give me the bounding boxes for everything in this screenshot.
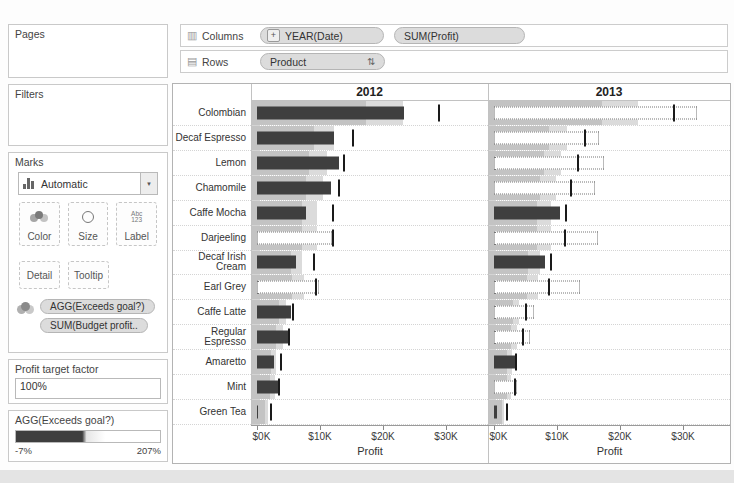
product-label[interactable]: Darjeeling xyxy=(173,226,251,251)
bullet-bar[interactable] xyxy=(257,331,288,344)
size-icon xyxy=(82,211,94,223)
product-label[interactable]: Colombian xyxy=(173,101,251,126)
bullet-bar[interactable] xyxy=(494,156,604,169)
axis-tick-label: $0K xyxy=(253,431,271,442)
bullet-bar[interactable] xyxy=(494,406,497,419)
size-button[interactable]: Size xyxy=(68,202,109,246)
bullet-bar[interactable] xyxy=(257,406,258,419)
reference-line xyxy=(338,179,340,196)
bullet-bar[interactable] xyxy=(257,231,332,244)
product-label[interactable]: Caffe Mocha xyxy=(173,201,251,226)
x-axis-2012: Profit $0K$10K$20K$30K xyxy=(252,426,488,463)
product-label[interactable]: Green Tea xyxy=(173,400,251,425)
bullet-bar[interactable] xyxy=(257,156,339,169)
axis-tick-label: $10K xyxy=(545,431,568,442)
bullet-bar[interactable] xyxy=(494,106,697,119)
pill-sum-profit[interactable]: SUM(Profit) xyxy=(394,27,525,44)
pill-year-date[interactable]: + YEAR(Date) xyxy=(260,27,384,44)
bullet-bar[interactable] xyxy=(494,131,599,144)
color-icon xyxy=(35,211,43,219)
bullet-row xyxy=(489,201,730,226)
bullet-row xyxy=(489,400,730,425)
reference-line xyxy=(332,204,334,221)
plus-icon[interactable]: + xyxy=(267,29,280,42)
page-bottom-margin xyxy=(0,470,734,483)
reference-line xyxy=(548,279,550,296)
reference-line xyxy=(550,254,552,271)
year-header-2012[interactable]: 2012 xyxy=(251,84,488,100)
x-axis: Profit $0K$10K$20K$30K Profit $0K$10K$20… xyxy=(251,425,730,463)
product-label[interactable]: Lemon xyxy=(173,151,251,176)
sort-icon[interactable]: ⇅ xyxy=(367,56,375,67)
dropdown-caret-icon[interactable]: ▼ xyxy=(140,173,157,194)
marks-pill-exceeds-goal[interactable]: AGG(Exceeds goal?) xyxy=(40,299,155,314)
axis-title-profit: Profit xyxy=(489,445,730,457)
bullet-row xyxy=(252,201,488,226)
bullet-row xyxy=(252,126,488,151)
bullet-chart: 2012 2013 ColombianDecaf EspressoLemonCh… xyxy=(172,83,731,464)
bullet-bar[interactable] xyxy=(257,206,306,219)
bullet-row xyxy=(489,350,730,375)
bullet-bar[interactable] xyxy=(494,256,545,269)
product-label[interactable]: Regular Espresso xyxy=(173,325,251,350)
bullet-row xyxy=(489,101,730,126)
pill-product[interactable]: Product ⇅ xyxy=(260,53,385,70)
product-label[interactable]: Mint xyxy=(173,375,251,400)
bullet-bar[interactable] xyxy=(257,306,291,319)
bullet-bar[interactable] xyxy=(494,331,530,344)
reference-line xyxy=(515,354,517,371)
bullet-bar[interactable] xyxy=(494,231,598,244)
parameter-value-input[interactable]: 100% xyxy=(15,378,161,399)
color-button[interactable]: Color xyxy=(19,202,60,246)
reference-line xyxy=(564,229,566,246)
product-label[interactable]: Chamomile xyxy=(173,176,251,201)
legend-max-label: 207% xyxy=(137,445,161,456)
bullet-bar[interactable] xyxy=(257,131,334,144)
filters-shelf[interactable]: Filters xyxy=(8,84,168,146)
column-headers: 2012 2013 xyxy=(251,84,730,101)
reference-line xyxy=(313,254,315,271)
parameter-title: Profit target factor xyxy=(9,360,167,376)
axis-tick-label: $30K xyxy=(671,431,694,442)
product-label[interactable]: Amaretto xyxy=(173,350,251,375)
bullet-bar[interactable] xyxy=(494,306,534,319)
bullet-row xyxy=(489,300,730,325)
axis-tick xyxy=(683,426,684,430)
detail-button[interactable]: Detail xyxy=(19,261,60,289)
product-label[interactable]: Caffe Latte xyxy=(173,300,251,325)
bullet-bar[interactable] xyxy=(494,281,580,294)
label-button[interactable]: Abc123 Label xyxy=(116,202,157,246)
bullet-row xyxy=(252,251,488,276)
rows-shelf[interactable]: ▤ Rows Product ⇅ xyxy=(180,50,728,73)
bullet-bar[interactable] xyxy=(257,281,319,294)
bullet-bar[interactable] xyxy=(257,181,331,194)
reference-line xyxy=(577,154,579,171)
legend-min-label: -7% xyxy=(15,445,32,456)
bullet-bar[interactable] xyxy=(494,356,515,369)
pages-shelf[interactable]: Pages xyxy=(8,24,168,78)
columns-shelf-label: Columns xyxy=(202,30,260,42)
product-label[interactable]: Decaf Irish Cream xyxy=(173,251,251,276)
panel-2012 xyxy=(252,101,488,425)
product-label[interactable]: Decaf Espresso xyxy=(173,126,251,151)
year-header-2013[interactable]: 2013 xyxy=(488,84,730,100)
columns-shelf[interactable]: ▥ Columns + YEAR(Date) SUM(Profit) xyxy=(180,24,728,47)
bullet-bar[interactable] xyxy=(494,206,560,219)
bullet-bar[interactable] xyxy=(257,381,278,394)
legend-gradient[interactable] xyxy=(15,430,161,443)
bullet-row xyxy=(252,350,488,375)
marks-card-title: Marks xyxy=(9,153,167,169)
bullet-bar[interactable] xyxy=(257,106,404,119)
marks-pill-budget-profit[interactable]: SUM(Budget profit.. xyxy=(40,318,148,333)
reference-line xyxy=(315,279,317,296)
axis-tick xyxy=(257,426,258,430)
bullet-bar[interactable] xyxy=(257,356,274,369)
rows-shelf-label: Rows xyxy=(202,56,260,68)
bullet-bar[interactable] xyxy=(494,181,595,194)
reference-line xyxy=(270,404,272,421)
product-label[interactable]: Earl Grey xyxy=(173,275,251,300)
tooltip-button[interactable]: Tooltip xyxy=(68,261,109,289)
bullet-row xyxy=(489,151,730,176)
mark-type-dropdown[interactable]: Automatic ▼ xyxy=(18,172,158,195)
bullet-bar[interactable] xyxy=(257,256,296,269)
